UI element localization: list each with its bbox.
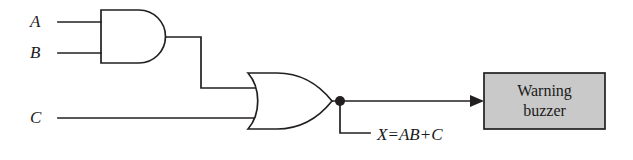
wire-output-equation-stub [340,101,370,133]
input-label-c: C [30,109,41,126]
wire-and-output-to-or-input [166,37,255,88]
equation-term-2: C [431,125,442,144]
circuit-schematic-canvas [0,0,633,160]
arrowhead-icon [470,95,484,107]
warning-buzzer-box [484,73,605,129]
equation-plus: + [420,125,432,144]
equation-term-1: AB [399,125,420,144]
equation-equals: = [387,125,399,144]
equation-variable: X [377,125,387,144]
or-gate-body [248,73,332,129]
and-gate-body [101,10,166,63]
input-label-a: A [30,13,40,30]
logic-circuit-diagram: A B C X=AB+C Warning buzzer [0,0,633,160]
input-label-b: B [30,44,40,61]
output-equation: X=AB+C [377,126,443,143]
